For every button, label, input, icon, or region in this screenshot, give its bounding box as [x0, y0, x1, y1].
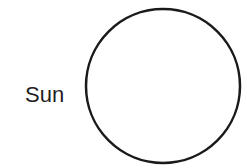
sun-circle [86, 9, 240, 163]
sun-diagram [0, 0, 247, 168]
